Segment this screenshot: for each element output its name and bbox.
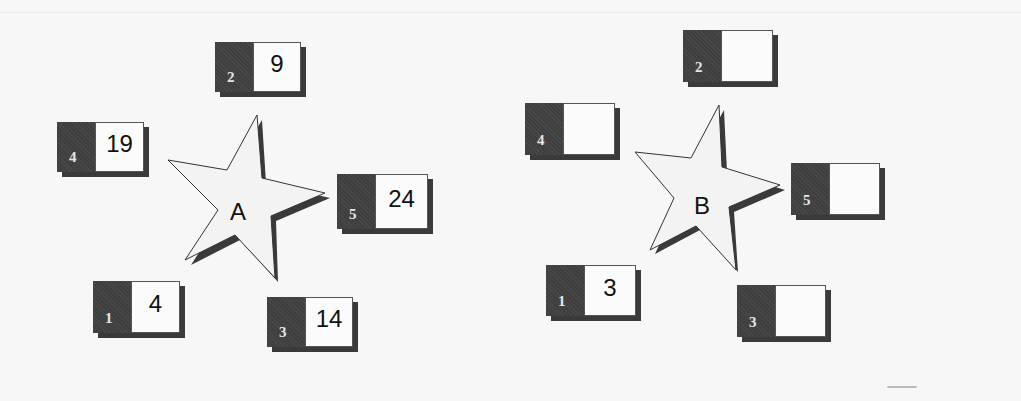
box-index-tab: 2 xyxy=(683,30,721,82)
box-b-1: 1 3 xyxy=(546,265,636,316)
box-index: 2 xyxy=(695,59,703,76)
box-b-4: 4 xyxy=(525,103,615,155)
box-index: 5 xyxy=(803,192,811,209)
box-index-tab: 4 xyxy=(525,103,563,155)
box-index: 1 xyxy=(558,293,566,310)
box-b-2: 2 xyxy=(683,30,773,82)
scan-smudge xyxy=(887,386,917,388)
box-b-5: 5 xyxy=(791,163,880,215)
box-index-tab: 3 xyxy=(737,285,775,337)
box-value xyxy=(829,163,880,215)
box-index: 3 xyxy=(749,314,757,331)
star-b-label: B xyxy=(687,192,717,220)
cluster-b: B 2 4 5 1 3 3 xyxy=(0,0,1021,401)
box-value xyxy=(563,103,615,155)
box-index-tab: 1 xyxy=(546,265,584,316)
box-index: 4 xyxy=(537,132,545,149)
box-value xyxy=(721,30,773,82)
box-index-tab: 5 xyxy=(791,163,829,215)
box-value xyxy=(775,285,826,337)
box-value: 3 xyxy=(584,265,636,316)
box-b-3: 3 xyxy=(737,285,826,337)
